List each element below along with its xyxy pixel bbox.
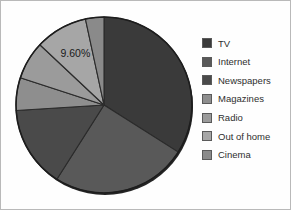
pie-slice-group <box>16 17 192 193</box>
legend-item-label: Internet <box>218 57 250 67</box>
pie-svg: 9.60% <box>1 1 201 210</box>
legend-swatch-icon <box>202 150 212 160</box>
legend-swatch-icon <box>202 94 212 104</box>
chart-legend: TVInternetNewspapersMagazinesRadioOut of… <box>202 34 290 164</box>
pie-chart-figure: 9.60% TVInternetNewspapersMagazinesRadio… <box>0 0 291 210</box>
legend-item-magazines[interactable]: Magazines <box>202 90 290 109</box>
legend-swatch-icon <box>202 113 212 123</box>
legend-swatch-icon <box>202 131 212 141</box>
legend-swatch-icon <box>202 75 212 85</box>
legend-item-cinema[interactable]: Cinema <box>202 146 290 165</box>
legend-item-radio[interactable]: Radio <box>202 108 290 127</box>
slice-data-label: 9.60% <box>61 47 91 59</box>
legend-item-label: Radio <box>218 113 243 123</box>
legend-item-label: Out of home <box>218 132 270 142</box>
legend-item-tv[interactable]: TV <box>202 34 290 53</box>
pie-plot-area: 9.60% <box>1 1 201 210</box>
legend-item-label: Magazines <box>218 94 264 104</box>
legend-swatch-icon <box>202 57 212 67</box>
legend-item-label: TV <box>218 39 230 49</box>
legend-item-newspapers[interactable]: Newspapers <box>202 71 290 90</box>
legend-item-label: Newspapers <box>218 76 271 86</box>
legend-item-out-of-home[interactable]: Out of home <box>202 127 290 146</box>
legend-swatch-icon <box>202 38 212 48</box>
legend-item-internet[interactable]: Internet <box>202 53 290 72</box>
legend-item-label: Cinema <box>218 150 251 160</box>
